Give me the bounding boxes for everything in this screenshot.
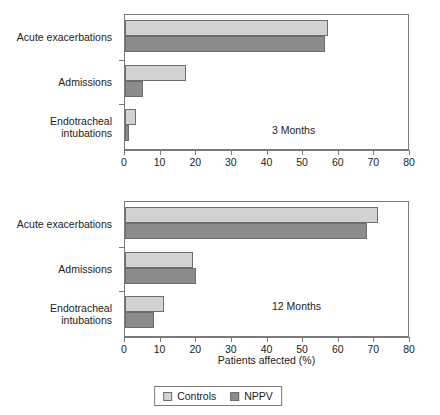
y-axis-label-0: Acute exacerbations xyxy=(0,31,112,43)
y-axis-label-line: Acute exacerbations xyxy=(0,31,112,43)
bar-nppv-1[interactable] xyxy=(125,81,143,97)
legend-swatch-nppv xyxy=(230,392,239,401)
bar-nppv-2[interactable] xyxy=(125,125,129,141)
x-axis-tick xyxy=(302,150,303,155)
x-axis-tick xyxy=(267,337,268,342)
x-axis-tick xyxy=(124,337,125,342)
category-band xyxy=(125,247,408,292)
y-axis-label-line: Endotracheal xyxy=(0,115,112,127)
x-axis-tick xyxy=(409,337,410,342)
y-axis-tick xyxy=(119,247,125,248)
x-axis-tick xyxy=(373,337,374,342)
y-axis-tick xyxy=(119,60,125,61)
bar-chart-figure: Acute exacerbationsAdmissionsEndotrachea… xyxy=(0,0,440,415)
category-band xyxy=(125,104,408,149)
bar-controls-2[interactable] xyxy=(125,109,136,125)
category-band xyxy=(125,60,408,105)
x-axis-tick xyxy=(409,150,410,155)
x-axis-tick-label: 70 xyxy=(368,156,380,168)
x-axis-tick-label: 20 xyxy=(189,156,201,168)
x-axis-tick-label: 30 xyxy=(225,156,237,168)
y-axis-label-line: Admissions xyxy=(0,263,112,275)
x-axis-tick-label: 40 xyxy=(261,156,273,168)
y-axis-label-line: Endotracheal xyxy=(0,302,112,314)
y-axis-tick xyxy=(119,104,125,105)
x-axis-tick xyxy=(373,150,374,155)
x-axis-tick-label: 60 xyxy=(332,156,344,168)
category-band xyxy=(125,202,408,247)
x-axis-tick xyxy=(231,337,232,342)
x-axis-tick xyxy=(195,337,196,342)
category-band xyxy=(125,291,408,336)
x-axis-tick-label: 0 xyxy=(121,156,127,168)
bar-nppv-0[interactable] xyxy=(125,36,325,52)
y-axis-label-1: Admissions xyxy=(0,76,112,88)
chart-legend: Controls NPPV xyxy=(154,386,282,406)
bar-controls-1[interactable] xyxy=(125,65,186,81)
panel-note-top: 3 Months xyxy=(272,124,315,136)
y-axis-labels-bottom: Acute exacerbationsAdmissionsEndotrachea… xyxy=(0,201,118,337)
y-axis-label-1: Admissions xyxy=(0,263,112,275)
x-axis-top: 01020304050607080 xyxy=(124,150,409,180)
x-axis-tick-label: 50 xyxy=(296,156,308,168)
y-axis-label-2: Endotrachealintubations xyxy=(0,115,112,139)
bar-controls-1[interactable] xyxy=(125,252,193,268)
legend-item-controls[interactable]: Controls xyxy=(163,390,216,402)
bar-nppv-0[interactable] xyxy=(125,223,367,239)
chart-panel-3-months: Acute exacerbationsAdmissionsEndotrachea… xyxy=(0,0,440,180)
x-axis-tick xyxy=(160,337,161,342)
y-axis-label-0: Acute exacerbations xyxy=(0,218,112,230)
y-axis-labels-top: Acute exacerbationsAdmissionsEndotrachea… xyxy=(0,14,118,150)
x-axis-tick xyxy=(160,150,161,155)
legend-item-nppv[interactable]: NPPV xyxy=(230,390,273,402)
x-axis-tick-label: 80 xyxy=(403,156,415,168)
legend-label-controls: Controls xyxy=(177,390,216,402)
y-axis-label-line: Acute exacerbations xyxy=(0,218,112,230)
y-axis-label-line: Admissions xyxy=(0,76,112,88)
bar-nppv-1[interactable] xyxy=(125,268,196,284)
y-axis-label-line: intubations xyxy=(0,314,112,326)
x-axis-tick xyxy=(195,150,196,155)
x-axis-tick xyxy=(231,150,232,155)
plot-area-top xyxy=(124,14,409,150)
y-axis-label-line: intubations xyxy=(0,127,112,139)
x-axis-title: Patients affected (%) xyxy=(124,354,409,366)
x-axis-tick xyxy=(124,150,125,155)
bar-controls-2[interactable] xyxy=(125,296,164,312)
bar-controls-0[interactable] xyxy=(125,207,378,223)
bar-nppv-2[interactable] xyxy=(125,312,154,328)
legend-label-nppv: NPPV xyxy=(244,390,273,402)
y-axis-tick xyxy=(119,291,125,292)
bar-controls-0[interactable] xyxy=(125,20,328,36)
x-axis-tick-label: 10 xyxy=(154,156,166,168)
legend-swatch-controls xyxy=(163,392,172,401)
panel-note-bottom: 12 Months xyxy=(272,300,321,312)
x-axis-tick xyxy=(338,337,339,342)
plot-area-bottom xyxy=(124,201,409,337)
x-axis-tick xyxy=(302,337,303,342)
x-axis-tick xyxy=(267,150,268,155)
x-axis-tick xyxy=(338,150,339,155)
y-axis-label-2: Endotrachealintubations xyxy=(0,302,112,326)
category-band xyxy=(125,15,408,60)
